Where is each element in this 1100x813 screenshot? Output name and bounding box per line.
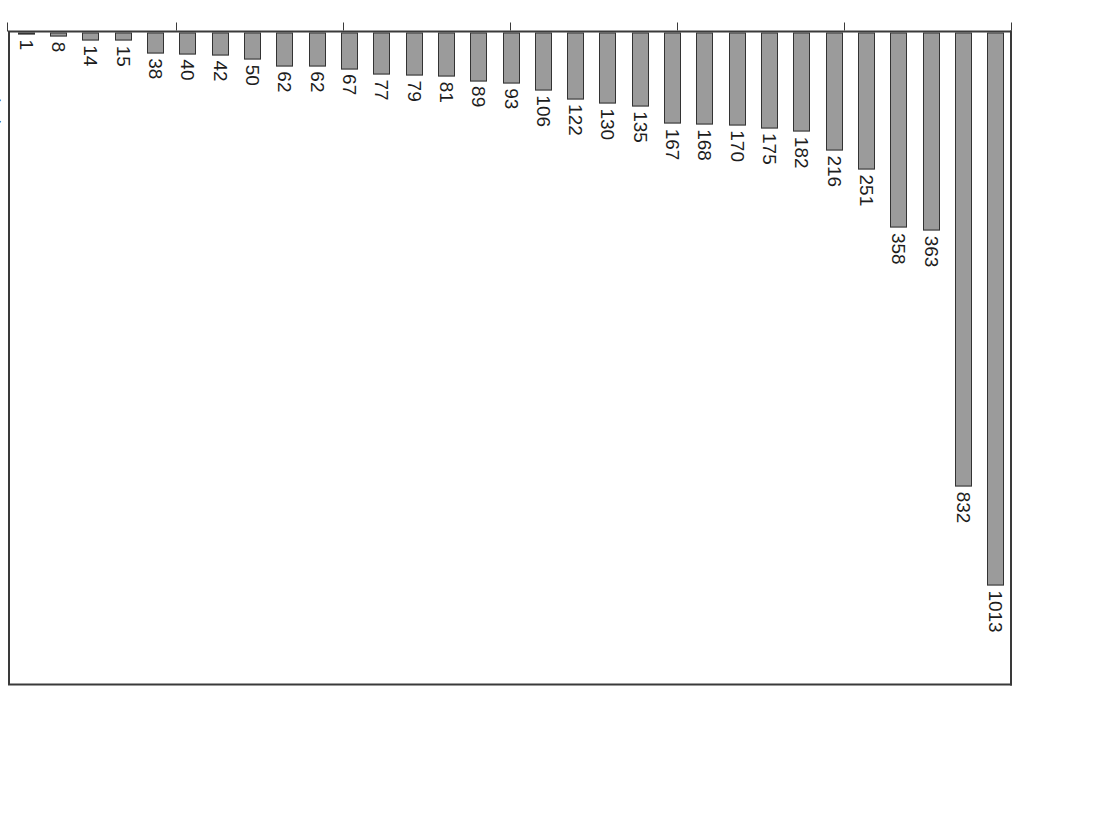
bar-value-label: 170 — [728, 130, 747, 162]
bar — [276, 32, 293, 66]
bar-item: 832 — [947, 32, 979, 685]
bar — [696, 32, 713, 124]
bar — [438, 32, 455, 76]
bar-value-label: 135 — [631, 111, 650, 143]
bar — [567, 32, 584, 99]
bar-value-label: 168 — [695, 129, 714, 161]
bar — [115, 32, 132, 40]
value-axis-tick — [677, 22, 678, 30]
bar-item: 89 — [463, 32, 495, 685]
bar-item: 167 — [656, 32, 688, 685]
bar-item: 122 — [560, 32, 592, 685]
bar-item: 81 — [430, 32, 462, 685]
bar-item: 42 — [204, 32, 236, 685]
bar-value-label: 81 — [437, 81, 456, 102]
bar-value-label: 50 — [243, 64, 262, 85]
bar-value-label: 122 — [566, 104, 585, 136]
bar-item: 251 — [850, 32, 882, 685]
bar-item: 77 — [366, 32, 398, 685]
bar-value-label: 832 — [954, 491, 973, 523]
bar — [632, 32, 649, 106]
bar — [858, 32, 875, 169]
category-rank-label: 1 — [0, 44, 3, 55]
bar — [535, 32, 552, 90]
bar-value-label: 358 — [889, 232, 908, 264]
bar-value-label: 93 — [502, 88, 521, 109]
bar-item: 15 — [107, 32, 139, 685]
bar — [923, 32, 940, 230]
bar-value-label: 79 — [405, 80, 424, 101]
bar — [761, 32, 778, 128]
bar-value-label: 38 — [146, 58, 165, 79]
bar-item: 67 — [333, 32, 365, 685]
bar-value-label: 175 — [760, 133, 779, 165]
bar — [793, 32, 810, 131]
value-axis-tick — [343, 22, 344, 30]
bar — [890, 32, 907, 227]
bar-item: 358 — [883, 32, 915, 685]
bar-value-label: 67 — [340, 74, 359, 95]
bar-item: 62 — [301, 32, 333, 685]
bar-item: 38 — [139, 32, 171, 685]
bar — [147, 32, 164, 53]
rotated-chart-stage: 020040060080010001200 101383236335825121… — [0, 0, 1100, 813]
bar — [373, 32, 390, 74]
bar-item: 135 — [624, 32, 656, 685]
bar-value-label: 251 — [857, 174, 876, 206]
bar-value-label: 182 — [792, 136, 811, 168]
bar — [503, 32, 520, 83]
bar-value-label: 8 — [49, 41, 68, 52]
bar-value-label: 77 — [372, 79, 391, 100]
value-axis-tick — [176, 22, 177, 30]
bar-value-label: 106 — [534, 95, 553, 127]
bar-item: 170 — [721, 32, 753, 685]
bar-item: 62 — [269, 32, 301, 685]
bar-value-label: 42 — [211, 60, 230, 81]
bar — [18, 32, 35, 34]
bar-item: 1013 — [980, 32, 1012, 685]
bar-item: 14 — [75, 32, 107, 685]
bar-value-label: 1 — [17, 39, 36, 50]
bar — [729, 32, 746, 125]
bar-value-label: 1013 — [986, 590, 1005, 632]
value-axis-tick — [844, 22, 845, 30]
bar-value-label: 40 — [178, 59, 197, 80]
bar-value-label: 89 — [469, 86, 488, 107]
bar — [826, 32, 843, 150]
bar-value-label: 130 — [598, 108, 617, 140]
bar — [987, 32, 1004, 585]
bar — [470, 32, 487, 81]
bar-item: 175 — [753, 32, 785, 685]
bar — [212, 32, 229, 55]
bar-item: 8 — [42, 32, 74, 685]
bar-item: 130 — [592, 32, 624, 685]
value-axis-tick — [1011, 22, 1012, 30]
bar-item: 93 — [495, 32, 527, 685]
bar — [406, 32, 423, 75]
bar-value-label: 167 — [663, 128, 682, 160]
bar-item: 106 — [527, 32, 559, 685]
bar-item: 1 — [10, 32, 42, 685]
bar — [955, 32, 972, 486]
bar-item: 363 — [915, 32, 947, 685]
bar-item: 40 — [172, 32, 204, 685]
bar-value-label: 363 — [922, 235, 941, 267]
value-axis-tick — [510, 22, 511, 30]
bar-item: 182 — [786, 32, 818, 685]
bar-series: 1013832363358251216182175170168167135130… — [10, 32, 1012, 685]
bar — [50, 32, 67, 36]
category-name-label: 广东 — [0, 88, 8, 134]
bar-value-label: 62 — [275, 71, 294, 92]
bar — [82, 32, 99, 40]
bar — [244, 32, 261, 59]
bar-item: 168 — [689, 32, 721, 685]
bar-value-label: 62 — [308, 71, 327, 92]
bar — [664, 32, 681, 123]
bar — [309, 32, 326, 66]
bar-item: 50 — [236, 32, 268, 685]
bar — [341, 32, 358, 69]
bar — [179, 32, 196, 54]
bar — [599, 32, 616, 103]
category-axis-minor-tick — [7, 23, 8, 31]
bar-item: 216 — [818, 32, 850, 685]
